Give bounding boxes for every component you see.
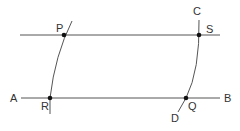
label-b: B xyxy=(224,92,231,104)
label-c: C xyxy=(193,5,201,17)
label-p: P xyxy=(56,22,63,34)
point-s xyxy=(197,33,202,38)
label-q: Q xyxy=(188,100,197,112)
label-s: S xyxy=(206,23,213,35)
diagram-canvas: A B C D P S R Q xyxy=(0,0,240,131)
label-d: D xyxy=(171,112,179,124)
label-r: R xyxy=(41,100,49,112)
label-a: A xyxy=(10,92,18,104)
